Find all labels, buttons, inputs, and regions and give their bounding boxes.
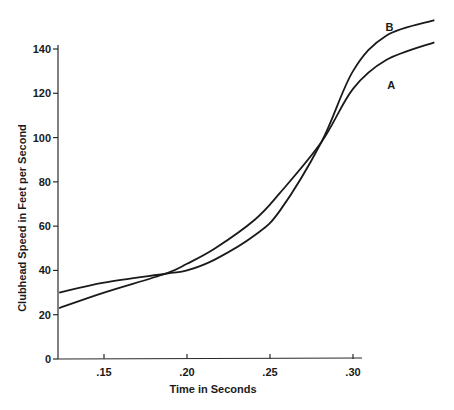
x-tick-label: .15 (96, 366, 111, 378)
series-b-label: B (386, 21, 394, 33)
y-tick-label: 80 (39, 176, 51, 188)
x-tick-label: .20 (179, 366, 194, 378)
chart: 020406080100120140 .15.20.25.30 AB Time … (0, 0, 454, 410)
y-tick-label: 0 (45, 353, 51, 365)
curves (59, 20, 434, 308)
y-tick-label: 60 (39, 220, 51, 232)
y-tick-label: 140 (33, 43, 51, 55)
y-tick-label: 20 (39, 309, 51, 321)
y-axis-title: Clubhead Speed in Feet per Second (16, 124, 28, 312)
y-tick-label: 40 (39, 264, 51, 276)
x-tick-label: .25 (262, 366, 277, 378)
x-tick-label: .30 (345, 366, 360, 378)
y-tick-label: 120 (33, 87, 51, 99)
y-tick-label: 100 (33, 132, 51, 144)
series-a-label: A (387, 79, 395, 91)
x-axis-title: Time in Seconds (169, 383, 256, 395)
series-a-curve (59, 42, 434, 308)
y-ticks: 020406080100120140 (33, 43, 58, 365)
series-b-curve (59, 20, 434, 292)
